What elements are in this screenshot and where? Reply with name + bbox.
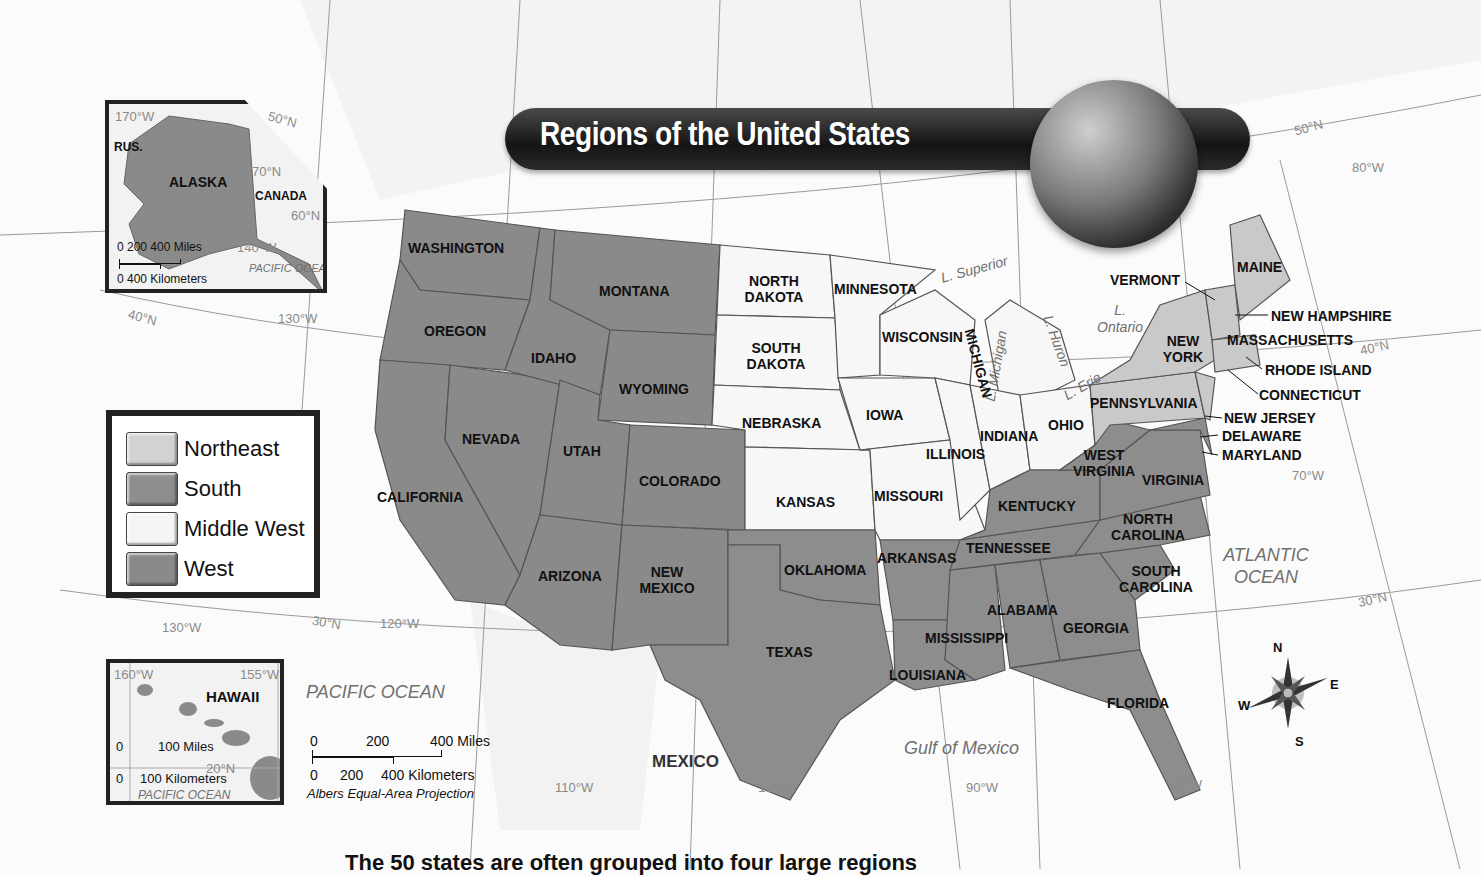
label-wyoming: WYOMING [619, 381, 689, 397]
label-alaska: ALASKA [169, 174, 227, 190]
label-georgia: GEORGIA [1063, 620, 1129, 636]
scale-tick: 0 [310, 733, 318, 749]
compass-n: N [1273, 640, 1282, 655]
compass-rose-icon [1246, 657, 1330, 729]
label-new-hampshire: NEW HAMPSHIRE [1271, 308, 1392, 324]
state-wyoming [598, 330, 715, 425]
legend-label: Northeast [184, 436, 279, 462]
scale-bar-km [312, 757, 394, 764]
label-massachusetts: MASSACHUSETTS [1227, 332, 1353, 348]
label-montana: MONTANA [599, 283, 670, 299]
label-iowa: IOWA [866, 407, 903, 423]
label-utah: UTAH [563, 443, 601, 459]
label-south-dakota: SOUTH DAKOTA [742, 340, 810, 372]
label-delaware: DELAWARE [1222, 428, 1301, 444]
scale-tick: 0 [310, 767, 318, 783]
grid-label-lon: 80°W [1352, 160, 1384, 175]
legend-swatch-south [126, 472, 178, 506]
label-washington: WASHINGTON [408, 240, 504, 256]
label-minnesota: MINNESOTA [834, 281, 917, 297]
label-north-carolina: NORTH CAROLINA [1108, 511, 1188, 543]
grid-label-lon: 110°W [555, 780, 593, 795]
label-alabama: ALABAMA [987, 602, 1058, 618]
legend-item-south: South [126, 472, 316, 506]
legend-swatch-middle-west [126, 512, 178, 546]
label-ohio: OHIO [1048, 417, 1084, 433]
compass-e: E [1330, 677, 1339, 692]
label-pacific-inset: PACIFIC OCEAN [138, 788, 230, 802]
label-new-mexico: NEW MEXICO [636, 564, 698, 596]
grid-label: 60°N [291, 208, 320, 223]
label-texas: TEXAS [766, 644, 813, 660]
grid-label: 70°N [252, 164, 281, 179]
compass-w: W [1238, 698, 1250, 713]
label-indiana: INDIANA [980, 428, 1038, 444]
label-south-carolina: SOUTH CAROLINA [1116, 563, 1196, 595]
scale-zero: 0 [116, 771, 123, 786]
label-colorado: COLORADO [639, 473, 721, 489]
scale-tick: 200 [340, 767, 363, 783]
label-kentucky: KENTUCKY [998, 498, 1076, 514]
label-pacific-ocean: PACIFIC OCEAN [306, 681, 445, 703]
grid-label: 155°W [240, 667, 279, 682]
projection-label: Albers Equal-Area Projection [307, 786, 474, 801]
label-canada: CANADA [255, 188, 307, 204]
legend-label: West [184, 556, 234, 582]
label-new-york: NEW YORK [1160, 333, 1206, 365]
grid-label: 160°W [114, 667, 153, 682]
scale-miles: 100 Miles [158, 739, 214, 754]
label-wisconsin: WISCONSIN [882, 329, 963, 345]
label-nevada: NEVADA [462, 431, 520, 447]
label-oklahoma: OKLAHOMA [784, 562, 866, 578]
state-kansas [745, 447, 875, 530]
map-title: Regions of the United States [540, 115, 910, 153]
label-hawaii: HAWAII [206, 689, 259, 705]
label-louisiana: LOUISIANA [889, 667, 966, 683]
label-missouri: MISSOURI [874, 488, 943, 504]
label-gulf-of-mexico: Gulf of Mexico [904, 737, 1019, 759]
label-connecticut: CONNECTICUT [1259, 387, 1361, 403]
label-idaho: IDAHO [531, 350, 576, 366]
grid-label: 140°W [237, 240, 276, 255]
scale-km: 0 400 Kilometers [117, 272, 207, 286]
label-atlantic-ocean: ATLANTIC OCEAN [1218, 544, 1314, 588]
scale-tick: 400 Kilometers [381, 767, 474, 783]
compass-s: S [1295, 734, 1304, 749]
grid-label-lon: 80°W [1170, 777, 1202, 792]
legend-label: South [184, 476, 242, 502]
label-kansas: KANSAS [776, 494, 835, 510]
grid-label-lon: 130°W [162, 620, 201, 635]
grid-label-lon: 90°W [966, 780, 998, 795]
label-lake-ontario: L. Ontario [1095, 302, 1145, 336]
legend-item-middle-west: Middle West [126, 512, 316, 546]
scale-km: 100 Kilometers [140, 771, 227, 786]
legend-swatch-northeast [126, 432, 178, 466]
scale-zero: 0 [116, 739, 123, 754]
label-russia: RUS. [114, 139, 143, 155]
scale-bar [119, 264, 161, 269]
label-nebraska: NEBRASKA [742, 415, 821, 431]
label-pennsylvania: PENNSYLVANIA [1090, 395, 1198, 411]
label-new-jersey: NEW JERSEY [1224, 410, 1316, 426]
label-tennessee: TENNESSEE [966, 540, 1051, 556]
label-pacific-inset: PACIFIC OCEAN [249, 262, 327, 274]
label-rhode-island: RHODE ISLAND [1265, 362, 1372, 378]
label-maryland: MARYLAND [1222, 447, 1302, 463]
globe-icon [1030, 80, 1198, 248]
figure-caption: The 50 states are often grouped into fou… [345, 850, 917, 876]
label-maine: MAINE [1237, 259, 1282, 275]
legend-swatch-west [126, 552, 178, 586]
grid-label-lon: 120°W [380, 616, 419, 631]
label-mississippi: MISSISSIPPI [925, 630, 1008, 646]
grid-label: 170°W [115, 109, 154, 124]
label-illinois: ILLINOIS [926, 446, 985, 462]
scale-bar-miles [312, 750, 442, 757]
label-arizona: ARIZONA [538, 568, 602, 584]
scale-tick: 200 [366, 733, 389, 749]
label-west-virginia: WEST VIRGINIA [1071, 447, 1137, 479]
label-arkansas: ARKANSAS [877, 550, 956, 566]
scale-tick: 400 Miles [430, 733, 490, 749]
hawaii-inset: 160°W 155°W HAWAII 0 100 Miles 20°N 0 10… [106, 659, 284, 805]
grid-label-lon: 70°W [1292, 468, 1324, 483]
label-florida: FLORIDA [1107, 695, 1169, 711]
